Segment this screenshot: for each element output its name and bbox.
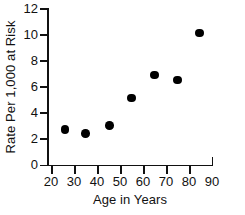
data-point: [81, 129, 90, 138]
x-tick-mark: [143, 166, 145, 174]
y-tick-label: 0: [16, 158, 38, 171]
data-point: [195, 29, 204, 38]
y-tick-label: 8: [16, 54, 38, 67]
data-point: [150, 71, 159, 80]
x-tick-mark: [166, 166, 168, 174]
y-tick-label: 10: [16, 28, 38, 41]
x-tick-mark: [120, 166, 122, 174]
x-tick-mark: [189, 166, 191, 174]
data-point: [173, 76, 182, 85]
y-tick-label: 6: [16, 80, 38, 93]
y-tick-label-group: 12 10 8 6 4 2 0: [12, 0, 38, 215]
y-tick-label: 12: [16, 2, 38, 15]
x-tick-mark: [51, 166, 53, 174]
scatter-chart: Rate Per 1,000 at Risk 12 10 8 6 4 2 0 2…: [0, 0, 245, 215]
data-point: [105, 121, 114, 130]
x-tick-mark: [74, 166, 76, 174]
x-axis-title: Age in Years: [47, 192, 213, 207]
x-tick-mark: [97, 166, 99, 174]
y-tick-label: 2: [16, 132, 38, 145]
data-point: [61, 125, 70, 134]
x-tick-label: 90: [199, 175, 225, 188]
data-point: [127, 94, 136, 103]
plot-area: [47, 8, 212, 165]
y-tick-label: 4: [16, 106, 38, 119]
